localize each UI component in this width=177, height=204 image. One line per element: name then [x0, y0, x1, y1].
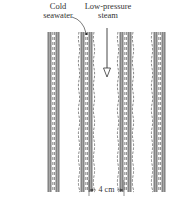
- dimension-label: 4 cm: [96, 185, 117, 194]
- low-pressure-steam-label: Low-pressure steam: [82, 2, 134, 20]
- steam-flow-arrow: [104, 28, 111, 77]
- diagram-graphics: [0, 0, 177, 204]
- tube-1: [48, 32, 59, 192]
- cold-seawater-label: Cold seawater: [38, 2, 78, 20]
- tube-4: [151, 32, 165, 192]
- cold-label-line2: seawater: [38, 11, 78, 20]
- steam-label-line2: steam: [82, 11, 134, 20]
- tube-3: [117, 32, 133, 192]
- condenser-diagram: Cold seawater Low-pressure steam 4 cm: [0, 0, 177, 204]
- tube-2: [78, 32, 94, 192]
